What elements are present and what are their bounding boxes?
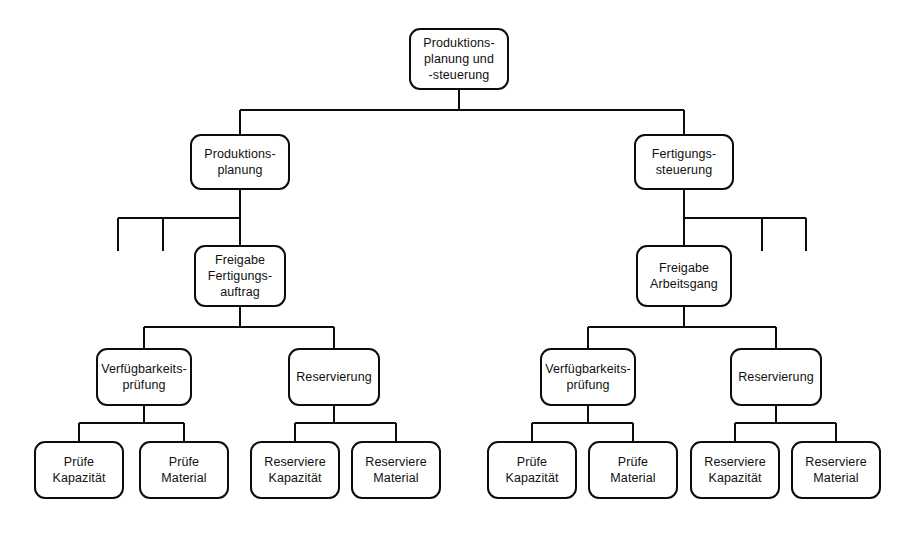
node-label: Produktions- planung <box>204 146 275 178</box>
node-verfuegbarkeitspruefung-links[interactable]: Verfügbarkeits- prüfung <box>96 348 192 406</box>
node-pruefe-material-1[interactable]: Prüfe Material <box>139 441 229 499</box>
node-verfuegbarkeitspruefung-rechts[interactable]: Verfügbarkeits- prüfung <box>540 348 636 406</box>
node-label: Reserviere Kapazität <box>704 454 765 486</box>
node-label: Prüfe Material <box>610 454 655 486</box>
node-label: Fertigungs- steuerung <box>652 146 716 178</box>
node-label: Reserviere Material <box>805 454 866 486</box>
node-freigabe-arbeitsgang[interactable]: Freigabe Arbeitsgang <box>636 245 732 307</box>
node-label: Verfügbarkeits- prüfung <box>545 361 631 393</box>
node-freigabe-fertigungsauftrag[interactable]: Freigabe Fertigungs- auftrag <box>194 245 286 307</box>
node-pruefe-material-2[interactable]: Prüfe Material <box>588 441 678 499</box>
node-pruefe-kapazitaet-1[interactable]: Prüfe Kapazität <box>34 441 124 499</box>
node-label: Reserviere Kapazität <box>264 454 325 486</box>
node-label: Produktions- planung und -steuerung <box>423 35 494 83</box>
node-produktionsplanung[interactable]: Produktions- planung <box>190 134 290 190</box>
node-reserviere-kapazitaet-1[interactable]: Reserviere Kapazität <box>250 441 340 499</box>
node-reserviere-kapazitaet-2[interactable]: Reserviere Kapazität <box>690 441 780 499</box>
node-fertigungssteuerung[interactable]: Fertigungs- steuerung <box>634 134 734 190</box>
node-produktionsplanung-und-steuerung[interactable]: Produktions- planung und -steuerung <box>409 28 509 90</box>
node-label: Prüfe Material <box>161 454 206 486</box>
node-label: Verfügbarkeits- prüfung <box>101 361 187 393</box>
node-reservierung-links[interactable]: Reservierung <box>288 348 380 406</box>
node-label: Freigabe Fertigungs- auftrag <box>208 252 272 300</box>
node-label: Reserviere Material <box>365 454 426 486</box>
node-label: Reservierung <box>738 369 814 385</box>
node-label: Reservierung <box>296 369 372 385</box>
node-reservierung-rechts[interactable]: Reservierung <box>730 348 822 406</box>
node-label: Prüfe Kapazität <box>505 454 558 486</box>
node-label: Prüfe Kapazität <box>52 454 105 486</box>
node-label: Freigabe Arbeitsgang <box>650 260 718 292</box>
node-reserviere-material-2[interactable]: Reserviere Material <box>791 441 881 499</box>
diagram-canvas: Produktions- planung und -steuerung Prod… <box>0 0 915 533</box>
node-reserviere-material-1[interactable]: Reserviere Material <box>351 441 441 499</box>
node-pruefe-kapazitaet-2[interactable]: Prüfe Kapazität <box>487 441 577 499</box>
